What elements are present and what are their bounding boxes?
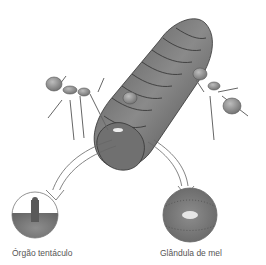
illustration (0, 0, 266, 265)
honey-gland-detail (163, 188, 217, 242)
arrow-right (148, 140, 194, 196)
tentacle-organ-detail (10, 192, 62, 243)
label-tentacle-organ: Órgão tentáculo (12, 248, 72, 258)
ant-right (193, 68, 248, 140)
label-honey-gland: Glândula de mel (160, 248, 222, 258)
